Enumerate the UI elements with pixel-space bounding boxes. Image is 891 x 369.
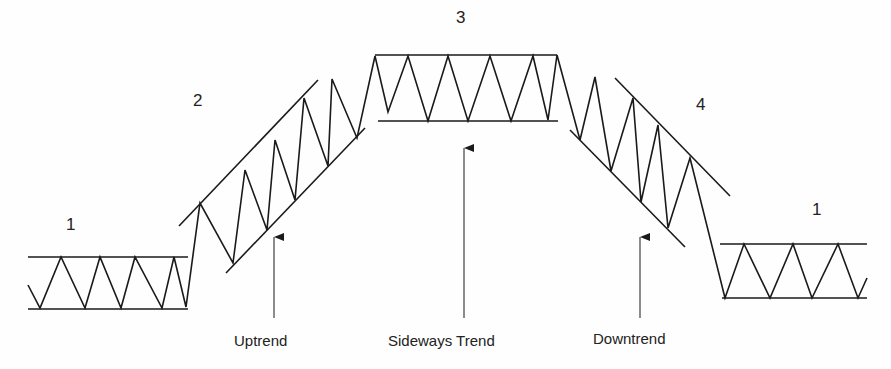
trend-diagram-graphic: [0, 0, 891, 369]
channel-4-top: [615, 78, 730, 196]
trend-diagram: 1 2 3 4 1 Uptrend Sideways Trend Downtre…: [0, 0, 891, 369]
phase-4-label: 4: [696, 95, 705, 115]
downtrend-caption: Downtrend: [593, 330, 666, 347]
phase-1-left-label: 1: [66, 215, 75, 235]
sideways-caption: Sideways Trend: [388, 332, 495, 349]
price-path: [28, 55, 867, 308]
channel-4-bottom: [570, 130, 685, 247]
channel-2-bottom: [226, 128, 365, 273]
uptrend-caption: Uptrend: [234, 332, 287, 349]
phase-3-label: 3: [456, 8, 465, 28]
phase-1-right-label: 1: [812, 200, 821, 220]
phase-2-label: 2: [193, 91, 202, 111]
